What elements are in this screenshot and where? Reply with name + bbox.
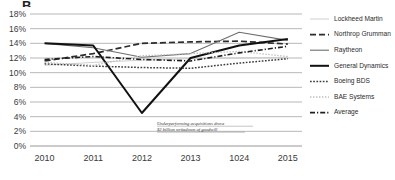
chart-container: B 0%2%4%6%8%10%12%14%16%18% 201020112012…: [0, 0, 395, 180]
plot-area-wrapper: 0%2%4%6%8%10%12%14%16%18% 20102011201220…: [0, 0, 395, 180]
legend-label[interactable]: Lockheed Martin: [334, 15, 383, 22]
y-tick-label: 6%: [14, 97, 27, 107]
x-tick-label: 2011: [84, 153, 103, 163]
y-tick-label: 18%: [9, 9, 26, 19]
y-tick-label: 2%: [14, 126, 27, 136]
x-tick-label: 2015: [278, 153, 298, 163]
y-tick-label: 16%: [9, 24, 26, 34]
y-tick-label: 12%: [9, 53, 26, 63]
legend-label[interactable]: Raytheon: [334, 46, 363, 54]
x-tick-label: 2013: [181, 153, 201, 163]
line-chart-svg: 0%2%4%6%8%10%12%14%16%18% 20102011201220…: [0, 0, 395, 180]
legend-label[interactable]: General Dynamics: [334, 62, 389, 70]
legend-label[interactable]: Average: [334, 108, 359, 116]
y-axis-tick-labels: 0%2%4%6%8%10%12%14%16%18%: [9, 9, 26, 151]
x-axis-tick-labels: 201020112012201310242015: [35, 153, 298, 163]
legend-label[interactable]: Northrop Grumman: [334, 30, 391, 38]
x-tick-label: 2012: [132, 153, 152, 163]
y-tick-label: 0%: [14, 141, 27, 151]
x-tick-label: 2010: [35, 153, 55, 163]
legend-label[interactable]: BAE Systems: [334, 93, 375, 101]
annotation-group: Underperforming acquisitions drove$2 bil…: [157, 121, 253, 132]
annotation-line-2: $2 billion writedown of goodwill: [157, 127, 218, 132]
series-line-average: [45, 46, 288, 61]
y-tick-label: 4%: [14, 112, 27, 122]
annotation-line-1: Underperforming acquisitions drove: [157, 121, 224, 126]
y-tick-label: 8%: [14, 82, 27, 92]
x-tick-label: 1024: [229, 153, 249, 163]
y-tick-label: 10%: [9, 68, 26, 78]
legend-label[interactable]: Boeing BDS: [334, 77, 371, 85]
legend: Lockheed MartinNorthrop GrummanRaytheonG…: [310, 15, 391, 117]
y-tick-label: 14%: [9, 38, 26, 48]
